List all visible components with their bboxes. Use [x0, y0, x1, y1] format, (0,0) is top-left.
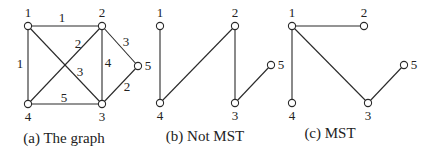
node-circle-icon — [364, 99, 371, 106]
panel-c: 12345(c) MST — [288, 5, 417, 142]
node-circle-icon — [156, 22, 163, 29]
panel-b: 12345(b) Not MST — [156, 5, 284, 145]
edge-3-5 — [368, 65, 404, 103]
node-label: 2 — [99, 5, 106, 20]
node-label: 3 — [365, 108, 372, 123]
edge-weight-label: 2 — [124, 79, 131, 94]
node-label: 5 — [411, 57, 418, 72]
panel-a: 1123432512345(a) The graph — [17, 5, 152, 147]
node-circle-icon — [231, 99, 238, 106]
node-circle-icon — [267, 61, 274, 68]
node-label: 2 — [232, 5, 239, 20]
edge-weight-label: 1 — [17, 56, 24, 71]
panel-caption: (b) Not MST — [166, 128, 244, 145]
edge-weight-label: 2 — [75, 36, 82, 51]
node-label: 2 — [361, 5, 368, 20]
panel-caption: (c) MST — [304, 125, 355, 142]
node-label: 3 — [232, 108, 239, 123]
node-label: 3 — [99, 109, 106, 124]
edge-weight-label: 3 — [77, 64, 84, 79]
node-circle-icon — [231, 22, 238, 29]
node-label: 4 — [157, 108, 164, 123]
node-circle-icon — [24, 22, 31, 29]
node-label: 1 — [289, 5, 296, 20]
node-circle-icon — [98, 100, 105, 107]
node-circle-icon — [400, 61, 407, 68]
graph-figure: 1123432512345(a) The graph12345(b) Not M… — [0, 0, 436, 154]
edge-4-2 — [160, 26, 235, 103]
figure-svg: 1123432512345(a) The graph12345(b) Not M… — [0, 0, 436, 154]
node-label: 1 — [25, 5, 32, 20]
edge-weight-label: 1 — [59, 10, 66, 25]
node-circle-icon — [288, 99, 295, 106]
node-circle-icon — [24, 100, 31, 107]
edge-weight-label: 5 — [61, 90, 68, 105]
edge-weight-label: 4 — [105, 55, 112, 70]
panel-caption: (a) The graph — [23, 130, 105, 147]
node-circle-icon — [156, 99, 163, 106]
node-circle-icon — [98, 22, 105, 29]
node-label: 4 — [289, 108, 296, 123]
edge-3-5 — [235, 65, 271, 103]
node-circle-icon — [360, 22, 367, 29]
node-circle-icon — [288, 22, 295, 29]
node-label: 4 — [25, 109, 32, 124]
node-label: 1 — [157, 5, 164, 20]
edge-weight-label: 3 — [123, 34, 130, 49]
edge-1-3 — [292, 26, 368, 103]
edge-3-5 — [102, 66, 138, 104]
node-circle-icon — [134, 62, 141, 69]
node-label: 5 — [145, 58, 152, 73]
node-label: 5 — [278, 57, 285, 72]
